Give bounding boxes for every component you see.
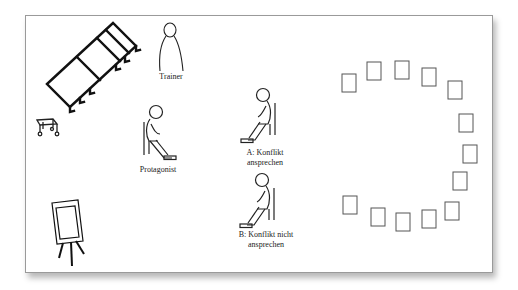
chair-icon <box>343 196 357 214</box>
chair-icon <box>453 172 467 190</box>
chair-icon <box>342 74 356 92</box>
trainer-label: Trainer <box>150 72 192 82</box>
chair-icon <box>463 145 477 163</box>
chair-icon <box>422 68 436 86</box>
cart-icon <box>37 119 59 136</box>
protagonist-figure-icon <box>144 106 176 160</box>
chair-icon <box>459 114 473 132</box>
chair-icon <box>395 61 409 79</box>
chair-circle-group <box>342 61 477 231</box>
chair-icon <box>448 81 462 99</box>
trainer-figure-icon <box>160 23 183 71</box>
chair-icon <box>422 210 436 228</box>
chair-icon <box>445 202 459 220</box>
option-b-figure-icon <box>240 174 274 228</box>
option-b-label: B: Konflikt nicht ansprechen <box>224 230 308 250</box>
chair-icon <box>396 213 410 231</box>
option-a-figure-icon <box>241 89 275 143</box>
chair-icon <box>367 62 381 80</box>
tables-icon <box>47 23 140 112</box>
protagonist-label: Protagonist <box>128 165 188 175</box>
flipchart-icon <box>52 200 84 266</box>
chair-icon <box>371 208 385 226</box>
option-a-label: A: Konflikt ansprechen <box>230 148 300 168</box>
